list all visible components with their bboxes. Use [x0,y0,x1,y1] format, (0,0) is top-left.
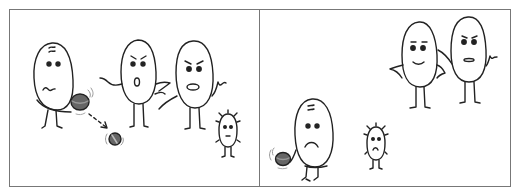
panel-2 [270,17,498,181]
angry-bean-frowning [159,41,226,129]
neutral-bean [438,17,497,103]
smiling-bean [390,22,445,108]
ball-in-hand [71,88,93,115]
comic-illustration [0,0,519,194]
sad-bean [290,99,333,181]
ball-in-hand-panel-2 [270,148,291,169]
dashed-motion-arrow [89,114,107,128]
falling-ball [106,133,124,145]
small-spiky-bean [216,110,240,157]
small-sad-spiky-bean [364,123,388,169]
nervous-bean [34,43,73,128]
angry-bean-shouting [100,40,170,127]
panel-1 [34,40,240,157]
